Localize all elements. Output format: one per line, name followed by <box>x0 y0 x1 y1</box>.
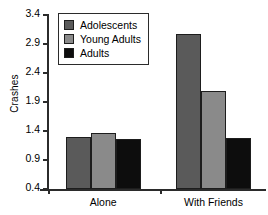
bar <box>201 91 226 189</box>
x-axis-group-label: Alone <box>90 196 117 208</box>
x-axis-group-label: With Friends <box>184 196 243 208</box>
bar <box>176 34 201 189</box>
y-axis-tick-mark <box>43 72 48 74</box>
x-axis-line <box>40 189 266 191</box>
y-axis-tick-label: 0.9 <box>25 152 40 164</box>
legend-item: Adolescents <box>64 18 141 32</box>
bar <box>91 133 116 189</box>
y-axis-tick-label: 0.4 <box>25 181 40 193</box>
bar-chart: Crashes 3.42.92.41.91.40.90.4 AloneWith … <box>0 0 268 215</box>
bar <box>226 138 251 189</box>
y-axis-tick-mark <box>43 101 48 103</box>
y-axis-tick-mark <box>43 159 48 161</box>
y-axis-label: Crashes <box>9 54 20 134</box>
legend-item: Adults <box>64 46 141 60</box>
y-axis-tick-mark <box>43 14 48 16</box>
y-axis-tick-label: 3.4 <box>25 7 40 19</box>
chart-legend: AdolescentsYoung AdultsAdults <box>58 13 149 65</box>
legend-swatch-icon <box>64 34 74 44</box>
y-axis-tick-mark <box>43 43 48 45</box>
y-axis-tick-mark <box>43 130 48 132</box>
bar <box>66 137 91 189</box>
x-axis-tick-mark <box>160 189 162 194</box>
legend-swatch-icon <box>64 20 74 30</box>
y-axis-tick-label: 2.9 <box>25 36 40 48</box>
legend-item-label: Adolescents <box>80 20 137 31</box>
legend-swatch-icon <box>64 48 74 58</box>
legend-item: Young Adults <box>64 32 141 46</box>
y-axis-tick-label: 1.4 <box>25 123 40 135</box>
y-axis-tick-label: 1.9 <box>25 94 40 106</box>
y-axis-tick-label: 2.4 <box>25 65 40 77</box>
legend-item-label: Adults <box>80 48 109 59</box>
bar <box>116 139 141 189</box>
x-axis-tick-mark <box>48 189 50 194</box>
legend-item-label: Young Adults <box>80 34 141 45</box>
